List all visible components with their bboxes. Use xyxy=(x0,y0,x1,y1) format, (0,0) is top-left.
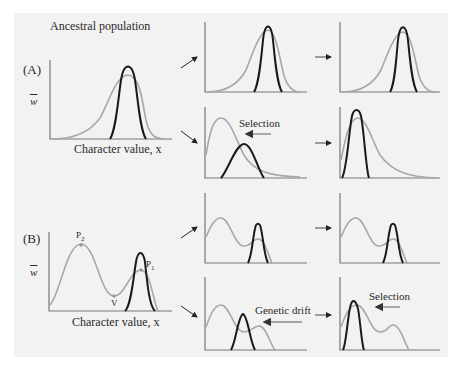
arrow-a-up xyxy=(181,57,197,68)
fitness-curve xyxy=(52,75,165,139)
plot-a-upper-2 xyxy=(340,22,440,92)
panel-b-label: (B) xyxy=(23,232,40,245)
y-axis-label-a: w xyxy=(30,96,37,107)
y-axis-label-b: w xyxy=(30,267,37,278)
arrow-a-down xyxy=(181,131,197,143)
point-label-v: V xyxy=(111,299,118,308)
plot-a-ancestral xyxy=(50,60,172,139)
annotation-selection-a: Selection xyxy=(239,118,280,129)
plot-b-upper-1 xyxy=(205,193,307,263)
point-label-p1: P1 xyxy=(146,260,155,272)
panel-a-label: (A) xyxy=(23,63,41,76)
plot-a-lower-2 xyxy=(340,107,440,178)
point-label-p2: P2 xyxy=(76,231,85,243)
arrow-b-up xyxy=(181,227,197,238)
x-axis-label-a: Character value, x xyxy=(74,143,162,155)
plot-b-upper-2 xyxy=(340,193,440,263)
plot-b-lower-2 xyxy=(340,277,440,350)
figure-title: Ancestral population xyxy=(50,20,150,32)
annotation-genetic-drift: Genetic drift xyxy=(255,305,311,316)
arrow-b-down xyxy=(181,306,197,317)
x-axis-label-b: Character value, x xyxy=(72,316,160,328)
plot-a-upper-1 xyxy=(205,22,307,92)
figure-canvas xyxy=(0,0,460,370)
population-curve xyxy=(110,67,146,140)
axes xyxy=(50,60,172,139)
annotation-selection-b: Selection xyxy=(369,291,410,302)
